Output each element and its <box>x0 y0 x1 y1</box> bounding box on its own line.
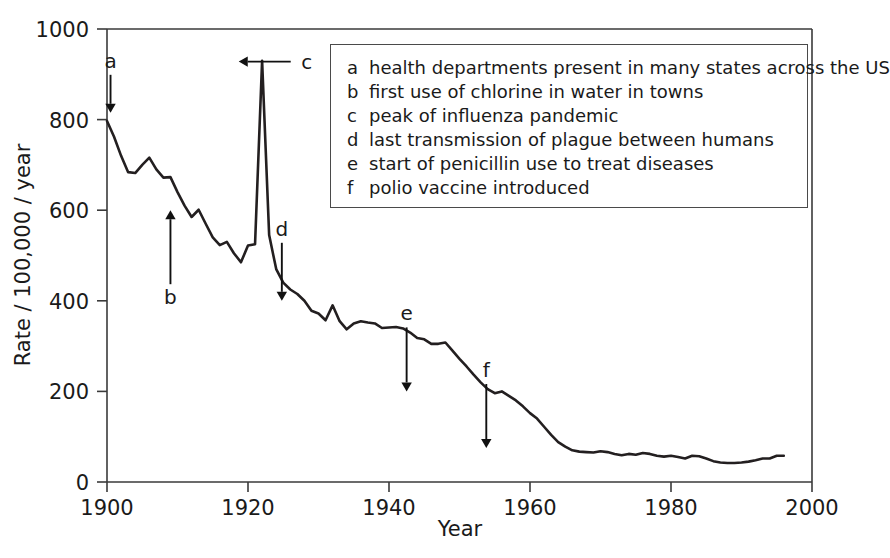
x-tick-label: 1940 <box>362 496 415 520</box>
legend-item-key: e <box>347 152 369 176</box>
marker-label-c: c <box>301 50 312 74</box>
legend-item-key: d <box>347 128 369 152</box>
annotation-marker-e: e <box>400 301 412 391</box>
marker-arrow-head-e <box>401 382 411 391</box>
legend-item-c: cpeak of influenza pandemic <box>347 104 807 128</box>
marker-arrow-head-b <box>165 210 175 219</box>
x-axis-title: Year <box>437 517 483 541</box>
legend-item-key: a <box>347 56 369 80</box>
y-tick-label: 800 <box>49 109 89 133</box>
annotation-marker-b: b <box>164 210 177 309</box>
legend-item-f: fpolio vaccine introduced <box>347 176 807 200</box>
legend-item-description: health departments present in many state… <box>369 56 890 80</box>
legend-item-key: f <box>347 176 369 200</box>
legend-item-e: estart of penicillin use to treat diseas… <box>347 152 807 176</box>
y-tick-label: 1000 <box>36 18 89 42</box>
annotation-marker-f: f <box>481 358 491 448</box>
y-axis-title: Rate / 100,000 / year <box>11 143 35 366</box>
legend-item-key: c <box>347 104 369 128</box>
x-tick-label: 1900 <box>80 496 133 520</box>
y-tick-label: 400 <box>49 290 89 314</box>
x-tick-label: 1960 <box>503 496 556 520</box>
y-tick-label: 0 <box>76 471 89 495</box>
marker-label-f: f <box>483 358 491 382</box>
y-tick-label: 200 <box>49 380 89 404</box>
x-tick-label: 1980 <box>644 496 697 520</box>
marker-arrow-head-f <box>481 439 491 448</box>
legend-item-description: peak of influenza pandemic <box>369 104 618 128</box>
annotation-marker-c: c <box>239 50 313 74</box>
marker-arrow-head-d <box>277 292 287 301</box>
legend-item-description: start of penicillin use to treat disease… <box>369 152 714 176</box>
legend-item-description: first use of chlorine in water in towns <box>369 80 703 104</box>
x-tick-label: 1920 <box>221 496 274 520</box>
marker-label-b: b <box>164 285 177 309</box>
marker-label-d: d <box>275 217 288 241</box>
annotation-marker-d: d <box>275 217 288 301</box>
marker-arrow-head-c <box>239 56 248 66</box>
legend-item-description: last transmission of plague between huma… <box>369 128 774 152</box>
x-tick-label: 2000 <box>785 496 838 520</box>
legend-item-d: dlast transmission of plague between hum… <box>347 128 807 152</box>
y-tick-label: 600 <box>49 199 89 223</box>
marker-label-e: e <box>400 301 412 325</box>
legend-box: ahealth departments present in many stat… <box>330 44 808 208</box>
legend-item-description: polio vaccine introduced <box>369 176 590 200</box>
marker-label-a: a <box>104 49 116 73</box>
legend-item-b: bfirst use of chlorine in water in towns <box>347 80 807 104</box>
legend-item-a: ahealth departments present in many stat… <box>347 56 807 80</box>
legend-item-key: b <box>347 80 369 104</box>
